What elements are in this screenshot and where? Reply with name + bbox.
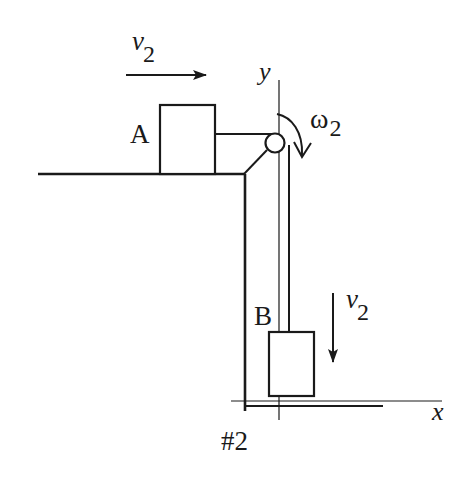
figure-caption: #2 [221,426,248,456]
x-axis-label: x [431,397,444,426]
block-b [269,332,314,396]
pulley-system-diagram: A y ω2 v2 B v2 x #2 [0,0,470,480]
velocity-b-label: v2 [346,284,369,325]
velocity-a-subscript: 2 [143,41,155,67]
omega-symbol: ω [310,103,328,134]
pulley [266,134,285,153]
omega-label: ω2 [310,103,341,141]
pulley-bracket [244,150,267,174]
block-a [160,105,215,174]
velocity-a-label: v2 [132,26,155,67]
omega-subscript: 2 [329,115,341,141]
block-b-label: B [254,301,272,331]
velocity-b-subscript: 2 [357,299,369,325]
block-a-label: A [130,119,150,149]
y-axis-label: y [256,57,271,86]
